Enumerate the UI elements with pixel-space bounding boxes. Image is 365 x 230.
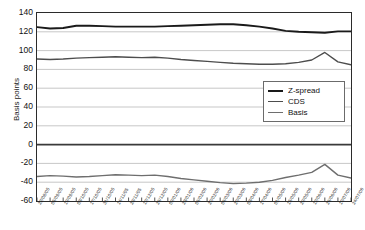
y-tick-label: -40 <box>7 177 33 185</box>
y-tick-label: -60 <box>7 196 33 204</box>
y-tick-label: 140 <box>7 8 33 16</box>
series-line-basis <box>37 164 351 183</box>
legend-color-swatch <box>268 90 283 92</box>
legend-label: CDS <box>288 97 305 106</box>
legend-color-swatch <box>268 112 283 113</box>
y-tick-label: 80 <box>7 64 33 72</box>
legend-item: Z-spread <box>268 85 340 96</box>
series-line-cds <box>37 52 351 64</box>
y-tick-label: -20 <box>7 158 33 166</box>
x-axis-tick-labels: 22/08/0505/09/0519/09/0503/10/0517/10/05… <box>36 203 352 230</box>
y-tick-label: 40 <box>7 102 33 110</box>
legend-label: Z-spread <box>288 86 320 95</box>
y-tick-label: 60 <box>7 83 33 91</box>
y-axis-tick-labels: 140120100806040200-20-40-60 <box>0 0 33 230</box>
legend-label: Basis <box>288 108 308 117</box>
y-tick-label: 20 <box>7 121 33 129</box>
x-tick-label: 24/07/06 <box>351 187 365 206</box>
legend-item: Basis <box>268 107 340 118</box>
legend-item: CDS <box>268 96 340 107</box>
legend-color-swatch <box>268 101 283 102</box>
y-tick-label: 100 <box>7 46 33 54</box>
y-tick-label: 0 <box>7 140 33 148</box>
chart-legend: Z-spreadCDSBasis <box>263 81 345 122</box>
y-tick-label: 120 <box>7 27 33 35</box>
